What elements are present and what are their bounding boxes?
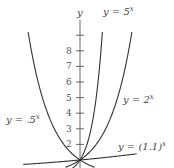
curve-label: y = 5x — [102, 5, 134, 17]
curve-label: y = (1.1)x — [117, 140, 166, 152]
y-tick-label: 3 — [66, 124, 72, 134]
y-axis: y2345678 — [66, 7, 84, 168]
y-tick-label: 6 — [66, 77, 72, 87]
y-tick-label: 7 — [66, 61, 72, 71]
y-axis-label: y — [76, 7, 83, 18]
curve-label: y = 2x — [122, 93, 154, 105]
plot-area: y2345678 y = .5xy = 5xy = 2xy = (1.1)x — [0, 0, 174, 168]
exponential-chart: y2345678 y = .5xy = 5xy = 2xy = (1.1)x — [0, 0, 174, 168]
y-tick-label: 8 — [66, 46, 72, 56]
curve-label: y = .5x — [5, 113, 40, 125]
curve-labels: y = .5xy = 5xy = 2xy = (1.1)x — [5, 5, 166, 152]
y-tick-label: 5 — [66, 93, 72, 103]
curve-base-0_5 — [28, 32, 94, 167]
y-tick-label: 4 — [66, 108, 72, 118]
